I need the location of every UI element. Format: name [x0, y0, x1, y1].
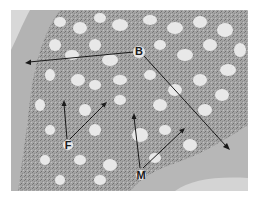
micrograph-image: [11, 10, 248, 191]
label-m-marrow: M: [135, 170, 147, 181]
micrograph-figure: B F M: [0, 0, 257, 199]
micrograph-illustration: [11, 10, 248, 191]
label-f-fat: F: [62, 140, 74, 151]
label-b-bone: B: [133, 46, 145, 57]
